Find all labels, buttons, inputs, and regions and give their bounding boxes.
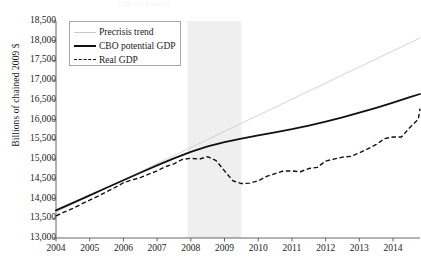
legend-entry-cbo-potential-gdp: CBO potential GDP — [74, 39, 176, 53]
legend-swatch-cbo-potential-gdp — [74, 41, 96, 51]
legend-entry-real-gdp: Real GDP — [74, 53, 138, 67]
legend-label-real-gdp: Real GDP — [99, 55, 138, 65]
chart-figure: GDP and Potential Billions of chained 20… — [0, 0, 421, 258]
legend-swatch-real-gdp — [74, 55, 96, 65]
legend-label-cbo-potential-gdp: CBO potential GDP — [99, 41, 176, 51]
y-axis-ticks — [53, 21, 57, 238]
plot-area — [0, 0, 421, 258]
chart-legend: Precrisis trend CBO potential GDP Real G… — [69, 21, 181, 66]
legend-label-precrisis-trend: Precrisis trend — [99, 27, 154, 37]
legend-swatch-precrisis-trend — [74, 27, 96, 37]
recession-band — [187, 21, 241, 238]
legend-entry-precrisis-trend: Precrisis trend — [74, 25, 154, 39]
x-axis-ticks — [56, 238, 393, 242]
